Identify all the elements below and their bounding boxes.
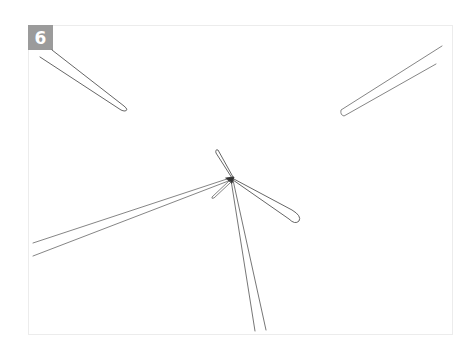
propeller-sketch (0, 0, 469, 347)
blade-right (232, 178, 300, 223)
blade-down (231, 180, 266, 331)
blade-top-left (40, 50, 127, 111)
blade-left (33, 178, 231, 256)
blade-top-right (341, 46, 442, 116)
blade-upper-small (216, 150, 233, 178)
